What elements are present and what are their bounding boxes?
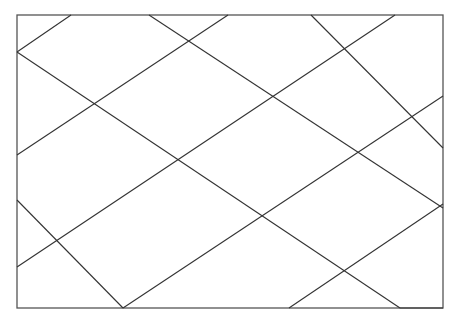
path-segment [123,96,443,308]
billiard-diagram [0,0,459,323]
path-segment [17,15,228,155]
reflection-paths [17,15,443,308]
path-segment [17,200,123,308]
path-segment [149,15,443,208]
table-frame [17,15,443,308]
path-segment [17,52,400,308]
path-segment [289,204,443,308]
path-segment [311,15,443,148]
path-segment [17,15,71,52]
